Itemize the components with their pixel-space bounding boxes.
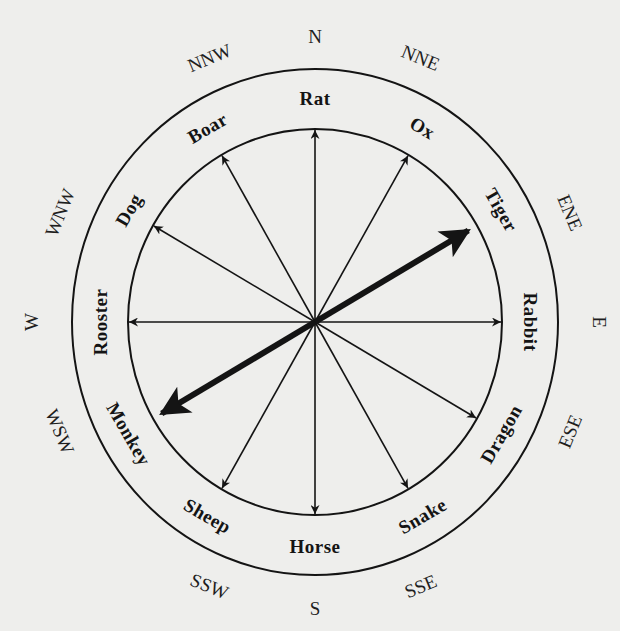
animal-label-rooster: Rooster [90,289,111,356]
compass-label-n: N [308,26,322,47]
compass-label-nne: NNE [399,41,443,75]
arrow-icon [154,226,315,322]
arrow-icon [315,322,408,488]
compass-label-nnw: NNW [184,39,234,76]
compass-label-ene: ENE [553,192,587,234]
arrow-icon [315,322,476,418]
compass-label-sse: SSE [401,570,439,602]
animal-label-dog: Dog [111,190,146,230]
arrow-icon [222,156,315,322]
animal-label-rabbit: Rabbit [520,293,541,352]
zodiac-compass-diagram: RatOxTigerRabbitDragonSnakeHorseSheepMon… [0,0,620,631]
compass-label-e: E [589,316,610,328]
compass-label-wsw: WSW [41,406,78,457]
thick-arrow-icon [162,322,315,414]
animal-label-dragon: Dragon [476,401,526,467]
compass-label-wnw: WNW [41,186,79,240]
animal-label-boar: Boar [184,108,231,147]
animal-label-sheep: Sheep [180,494,235,538]
compass-label-s: S [310,598,321,619]
animal-label-rat: Rat [299,88,330,109]
compass-label-ese: ESE [554,412,586,451]
compass-rose-svg: RatOxTigerRabbitDragonSnakeHorseSheepMon… [0,0,620,631]
thick-arrow-icon [315,231,468,323]
animal-label-ox: Ox [406,113,438,144]
compass-label-w: W [21,313,42,331]
compass-label-ssw: SSW [187,569,231,603]
animal-label-snake: Snake [395,494,451,538]
animal-label-tiger: Tiger [480,185,521,236]
animal-label-horse: Horse [289,536,340,557]
